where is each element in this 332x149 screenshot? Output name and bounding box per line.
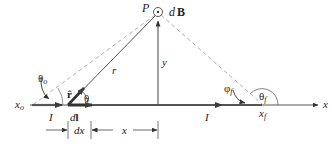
theta-o-arc: [58, 88, 63, 105]
label-x-o: xo: [14, 98, 24, 112]
label-x-f: xf: [258, 107, 268, 121]
label-dl: dl: [70, 111, 79, 123]
label-x-axis: x: [322, 98, 328, 110]
point-p-dot: [157, 11, 159, 13]
label-y: y: [161, 56, 167, 68]
label-theta: θ: [84, 92, 89, 104]
biot-savart-diagram: P d B r y r̂ θ θo θf φf xo xf x I I dl d…: [0, 0, 332, 149]
label-dx: dx: [74, 124, 85, 136]
phi-f-arrow: [233, 90, 245, 103]
label-x-distance: x: [121, 124, 127, 136]
label-field-b: B: [177, 5, 185, 19]
label-field-d: d: [169, 5, 176, 19]
label-theta-f: θf: [259, 90, 268, 104]
dashed-line-to-xo: [34, 15, 155, 104]
label-r: r: [112, 64, 117, 76]
label-current-left: I: [48, 111, 54, 123]
label-p: P: [141, 1, 150, 15]
label-r-hat: r̂: [67, 88, 72, 100]
label-theta-o: θo: [38, 72, 47, 86]
dashed-line-to-xf: [161, 15, 262, 104]
label-phi-f: φf: [224, 82, 234, 96]
label-current-right: I: [204, 111, 210, 123]
